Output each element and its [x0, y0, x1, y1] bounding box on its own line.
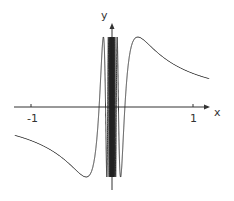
- plot: -1 1 x y: [0, 0, 234, 201]
- tick-label-neg-1: -1: [27, 112, 38, 125]
- tick-label-pos-1: 1: [190, 112, 197, 125]
- y-axis-arrow-icon: [110, 23, 115, 29]
- y-axis-label: y: [101, 9, 108, 22]
- x-axis-arrow-icon: [204, 105, 210, 110]
- x-axis-label: x: [214, 106, 221, 119]
